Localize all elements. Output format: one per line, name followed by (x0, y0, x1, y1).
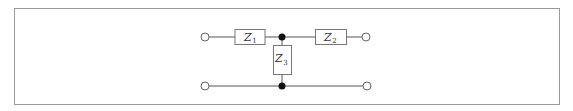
impedance-z3: Z3 (274, 46, 292, 75)
junction-top-node-icon (279, 34, 286, 41)
t-network-circuit: Z1 Z2 Z3 (0, 0, 573, 111)
terminal-bottom-left-icon (201, 82, 209, 90)
terminal-top-right-icon (362, 33, 370, 41)
terminal-top-left-icon (201, 33, 209, 41)
junction-bottom-node-icon (279, 83, 286, 90)
terminal-bottom-right-icon (363, 82, 371, 90)
impedance-z1: Z1 (235, 30, 265, 46)
impedance-z2: Z2 (316, 30, 347, 46)
